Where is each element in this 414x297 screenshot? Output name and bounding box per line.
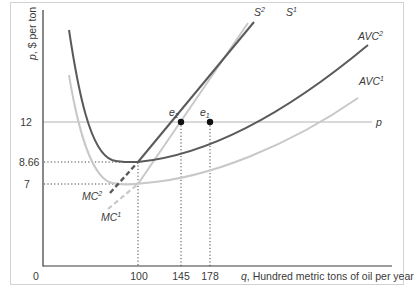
x-tick-178: 178	[201, 270, 219, 282]
point-e2	[178, 119, 184, 125]
chart: p, $ per ton 12 8.66 7 0 100 145 178 q, …	[0, 0, 414, 297]
y-axis-label: p, $ per ton	[26, 7, 38, 61]
x-tick-0: 0	[33, 270, 39, 282]
chart-frame	[11, 3, 404, 285]
x-axis-label: q, Hundred metric tons of oil per year	[241, 270, 414, 282]
price-line-label: p	[375, 116, 382, 128]
y-tick-12: 12	[20, 116, 32, 128]
y-tick-7: 7	[24, 178, 30, 190]
y-tick-8-66: 8.66	[19, 156, 40, 168]
x-tick-100: 100	[130, 270, 148, 282]
x-tick-145: 145	[172, 270, 190, 282]
point-e1	[207, 119, 213, 125]
